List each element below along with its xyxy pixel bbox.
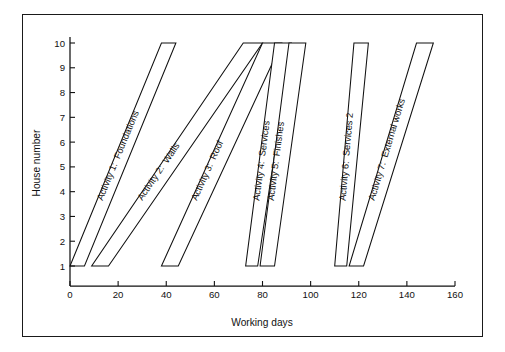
x-tick-label: 160	[447, 289, 463, 300]
line-of-balance-figure: 12345678910 020406080100120140160 Activi…	[0, 0, 505, 352]
chart-canvas: 12345678910 020406080100120140160 Activi…	[0, 0, 505, 352]
x-tick-label: 60	[209, 289, 220, 300]
x-tick-label: 100	[303, 289, 319, 300]
y-tick-label: 7	[60, 112, 65, 123]
y-tick-label: 9	[60, 62, 65, 73]
y-tick-label: 3	[60, 211, 65, 222]
x-tick-label: 140	[399, 289, 415, 300]
y-tick-label: 2	[60, 236, 65, 247]
x-tick-label: 120	[351, 289, 367, 300]
x-tick-label: 0	[67, 289, 72, 300]
activity-band-label: Activity 1: Foundations	[95, 109, 141, 202]
y-tick-label: 8	[60, 87, 65, 98]
x-axis-title: Working days	[231, 317, 293, 328]
y-tick-group: 12345678910	[54, 38, 75, 272]
x-tick-label: 40	[161, 289, 172, 300]
y-tick-label: 5	[60, 161, 65, 172]
y-tick-label: 4	[60, 186, 66, 197]
activity-bands-group	[70, 43, 433, 266]
y-tick-label: 10	[54, 38, 65, 49]
x-tick-group: 020406080100120140160	[67, 281, 463, 300]
y-tick-label: 6	[60, 137, 65, 148]
x-tick-label: 20	[113, 289, 124, 300]
y-axis-title: House number	[31, 129, 42, 196]
y-tick-label: 1	[60, 261, 65, 272]
x-tick-label: 80	[257, 289, 268, 300]
